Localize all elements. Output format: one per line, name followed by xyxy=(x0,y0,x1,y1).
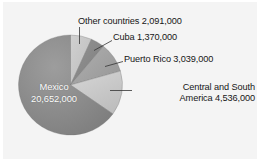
slice-label-central-south-america: Central and South America 4,536,000 xyxy=(133,82,255,104)
slice-label-mexico-line1: Mexico xyxy=(18,81,90,93)
slice-label-cuba: Cuba 1,370,000 xyxy=(113,32,177,43)
slice-label-mexico-line2: 20,652,000 xyxy=(18,93,90,105)
slice-label-mexico: Mexico 20,652,000 xyxy=(18,81,90,105)
slice-label-puerto-rico: Puerto Rico 3,039,000 xyxy=(124,54,213,65)
slice-label-central-south-america-line1: Central and South xyxy=(133,82,255,93)
pie-chart-figure: Other countries 2,091,000 Cuba 1,370,000… xyxy=(0,0,263,164)
slice-label-other-countries: Other countries 2,091,000 xyxy=(78,16,182,27)
slice-label-central-south-america-line2: America 4,536,000 xyxy=(133,93,255,104)
